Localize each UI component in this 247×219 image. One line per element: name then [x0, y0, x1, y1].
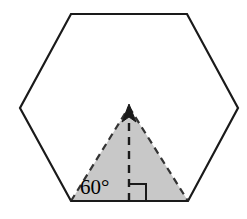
angle-60-degrees-label: 60° — [80, 175, 109, 199]
geometry-canvas: 60° — [0, 0, 247, 219]
geometry-figure: 60° — [0, 0, 247, 219]
